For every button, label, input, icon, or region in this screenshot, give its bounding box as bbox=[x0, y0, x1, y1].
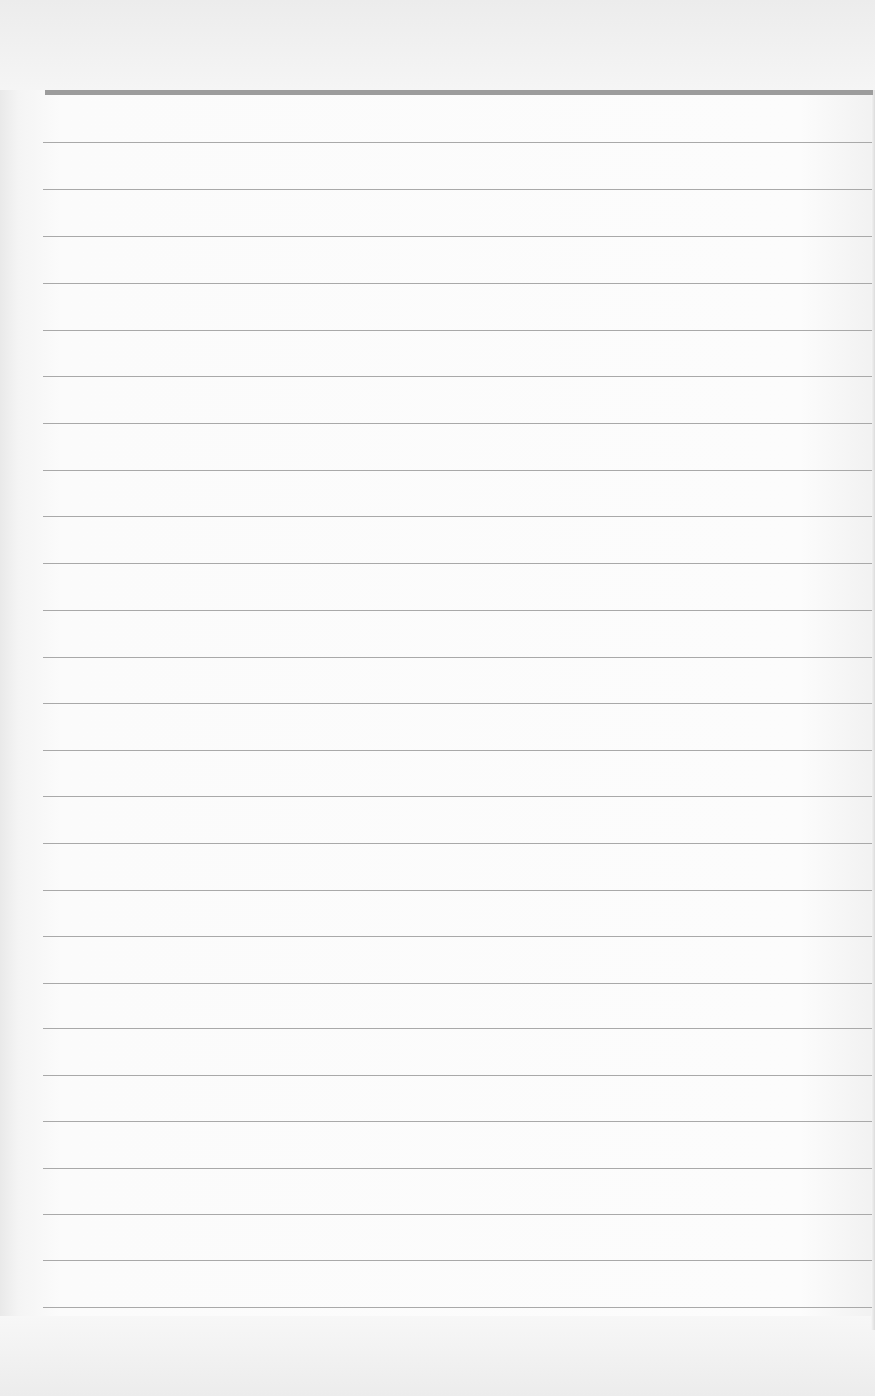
ruled-line bbox=[43, 1075, 872, 1076]
ruled-line bbox=[43, 470, 872, 471]
ruled-line bbox=[43, 843, 872, 844]
ruled-line bbox=[43, 936, 872, 937]
ruled-line bbox=[43, 1121, 872, 1122]
ruled-line bbox=[43, 1260, 872, 1261]
ruled-line bbox=[43, 750, 872, 751]
ruled-line bbox=[43, 516, 872, 517]
ruled-line bbox=[43, 283, 872, 284]
ruled-line bbox=[43, 657, 872, 658]
ruled-line bbox=[43, 983, 872, 984]
lined-paper-sheet bbox=[0, 0, 875, 1396]
ruled-line bbox=[43, 1214, 872, 1215]
ruled-line bbox=[43, 1307, 872, 1308]
ruled-line bbox=[43, 890, 872, 891]
ruled-line bbox=[43, 376, 872, 377]
ruled-line bbox=[43, 189, 872, 190]
ruled-line bbox=[43, 330, 872, 331]
ruled-line bbox=[43, 610, 872, 611]
ruled-line bbox=[43, 236, 872, 237]
ruled-line bbox=[43, 423, 872, 424]
header-rule-line bbox=[45, 90, 873, 95]
ruled-line bbox=[43, 1168, 872, 1169]
ruled-line bbox=[43, 563, 872, 564]
ruled-line bbox=[43, 142, 872, 143]
ruled-line bbox=[43, 703, 872, 704]
ruled-line bbox=[43, 796, 872, 797]
ruled-line bbox=[43, 1028, 872, 1029]
paper-right-edge bbox=[871, 90, 875, 1330]
